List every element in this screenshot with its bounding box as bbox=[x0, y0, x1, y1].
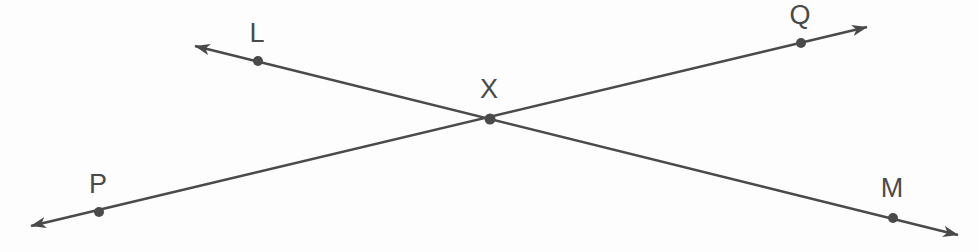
point-dot-l bbox=[253, 56, 263, 66]
geometry-diagram: L Q X P M bbox=[0, 0, 978, 252]
point-dot-q bbox=[796, 38, 806, 48]
geometry-canvas bbox=[0, 0, 978, 252]
point-label-x: X bbox=[480, 76, 498, 103]
point-label-l: L bbox=[249, 20, 264, 47]
point-label-q: Q bbox=[789, 2, 810, 29]
point-label-m: M bbox=[881, 175, 904, 202]
points-group bbox=[94, 38, 898, 223]
point-dot-p bbox=[94, 207, 104, 217]
point-dot-x bbox=[485, 114, 496, 125]
lines-group bbox=[31, 27, 958, 235]
point-dot-m bbox=[888, 213, 898, 223]
line-lm bbox=[195, 46, 958, 235]
line-pq bbox=[31, 27, 867, 226]
point-label-p: P bbox=[89, 171, 107, 198]
